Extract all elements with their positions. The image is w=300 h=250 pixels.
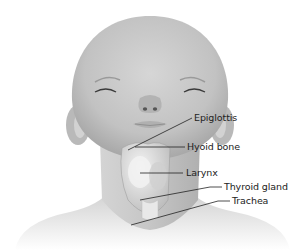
anatomy-diagram: Epiglottis Hyoid bone Larynx Thyroid gla…: [0, 0, 300, 250]
trachea-structure: [142, 200, 158, 220]
label-larynx: Larynx: [186, 168, 218, 178]
label-trachea: Trachea: [232, 196, 268, 206]
label-thyroid-gland: Thyroid gland: [224, 182, 288, 192]
head: [72, 16, 228, 160]
label-epiglottis: Epiglottis: [194, 113, 237, 123]
nose: [138, 95, 161, 113]
larynx-cartilage: [128, 156, 152, 188]
infant-head-illustration: [0, 0, 300, 250]
thyroid-lobe: [149, 162, 167, 190]
label-hyoid-bone: Hyoid bone: [187, 142, 240, 152]
